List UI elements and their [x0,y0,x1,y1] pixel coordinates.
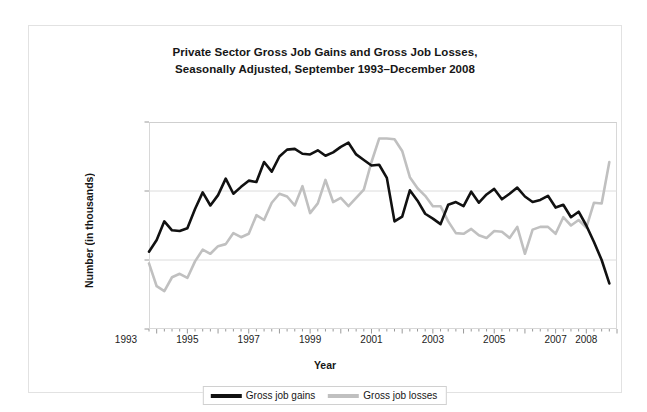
x-tick-label: 2001 [360,334,382,345]
legend-swatch [211,394,242,398]
legend-label: Gross job losses [363,390,437,401]
legend-swatch [328,394,359,398]
x-tick-label: 2005 [483,334,505,345]
x-tick-label: 1993 [115,334,137,345]
figure-frame: Private Sector Gross Job Gains and Gross… [28,25,622,393]
plot-area [149,122,617,329]
series-line-gross-job-gains [149,143,609,284]
x-tick-label: 2007 [544,334,566,345]
x-tick-label: 1995 [176,334,198,345]
x-tick-label: 2003 [422,334,444,345]
legend-item[interactable]: Gross job gains [211,390,315,401]
chart-title: Private Sector Gross Job Gains and Gross… [29,44,621,78]
x-tick-label: 2008 [575,334,597,345]
x-tick-label: 1999 [299,334,321,345]
y-axis-label: Number (in thousands) [81,151,97,311]
x-tick-label: 1997 [238,334,260,345]
legend-item[interactable]: Gross job losses [328,390,437,401]
chart-title-line-1: Private Sector Gross Job Gains and Gross… [29,44,621,61]
chart-canvas [149,122,617,329]
chart-legend: Gross job gainsGross job losses [203,386,447,405]
chart-title-line-2: Seasonally Adjusted, September 1993–Dece… [29,61,621,78]
legend-label: Gross job gains [246,390,315,401]
x-axis-label: Year [29,359,621,371]
series-line-gross-job-losses [149,139,609,291]
